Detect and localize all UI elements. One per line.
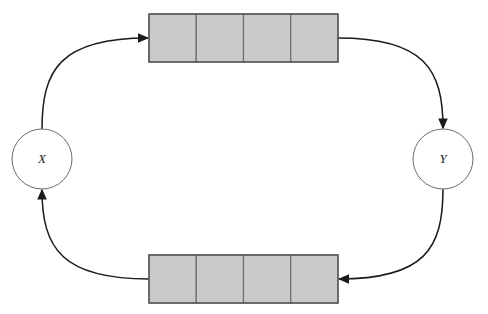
edge-bottom-queue-to-x [37, 189, 149, 280]
node-x-label: X [37, 151, 47, 166]
node-y: Y [413, 129, 473, 189]
bottom-queue-cell-4 [291, 255, 338, 303]
edge-x-to-top-queue-arrowhead [138, 33, 149, 43]
edges-layer [37, 33, 448, 284]
bottom-queue-cell-1 [149, 255, 196, 303]
diagram-canvas: X Y [0, 0, 488, 314]
edge-bottom-queue-to-x-path [42, 190, 149, 279]
top-queue-cell-3 [244, 14, 291, 62]
bottom-queue [149, 255, 338, 303]
node-x: X [12, 129, 72, 189]
cycle-diagram: X Y [0, 0, 488, 314]
edge-y-to-bottom-queue [338, 189, 443, 284]
bottom-queue-cell-2 [196, 255, 243, 303]
edge-x-to-top-queue [42, 33, 149, 129]
edge-y-to-bottom-queue-path [339, 189, 443, 279]
top-queue [149, 14, 338, 62]
edge-x-to-top-queue-path [42, 38, 148, 129]
bottom-queue-cell-3 [244, 255, 291, 303]
edge-top-queue-to-y [338, 38, 448, 130]
edge-top-queue-to-y-path [338, 38, 443, 128]
top-queue-cell-4 [291, 14, 338, 62]
edge-y-to-bottom-queue-arrowhead [338, 274, 349, 284]
top-queue-cell-2 [196, 14, 243, 62]
top-queue-cell-1 [149, 14, 196, 62]
edge-top-queue-to-y-arrowhead [438, 119, 448, 130]
edge-bottom-queue-to-x-arrowhead [37, 189, 47, 200]
